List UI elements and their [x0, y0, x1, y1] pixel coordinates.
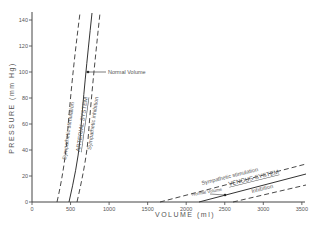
y-tick-label: 100	[19, 69, 28, 75]
x-tick-label: 1500	[142, 206, 154, 212]
normal-volume-arterial-label: Normal Volume	[108, 69, 146, 75]
y-tick-label: 140	[19, 17, 28, 23]
pressure-volume-chart: 020406080100120140 050010001500200025003…	[0, 0, 319, 227]
x-tick-label: 3000	[257, 206, 269, 212]
x-tick-label: 500	[66, 206, 75, 212]
y-tick-label: 0	[25, 199, 28, 205]
normal-volume-venous-label: Normal Volume	[191, 187, 223, 197]
y-tick-label: 80	[22, 95, 28, 101]
x-tick-label: 0	[30, 206, 33, 212]
x-tick-label: 2500	[219, 206, 231, 212]
arterial-inhibition-label: Sympathetic inhibition	[86, 96, 99, 150]
y-tick-label: 60	[22, 121, 28, 127]
x-tick-label: 1000	[103, 206, 115, 212]
y-tick-label: 20	[22, 173, 28, 179]
y-tick-label: 120	[19, 43, 28, 49]
y-axis-label: PRESSURE (mm Hg)	[8, 62, 16, 154]
x-tick-label: 3500	[296, 206, 308, 212]
arterial-stimulation-label: Sympathetic stimulation	[61, 102, 75, 160]
x-axis-label: VOLUME (ml)	[155, 211, 215, 219]
normal-volume-venous-pointer	[210, 194, 225, 195]
venous-inhibition-label: Inhibition	[251, 183, 274, 194]
y-tick-label: 40	[22, 147, 28, 153]
y-ticks: 020406080100120140	[19, 17, 32, 205]
